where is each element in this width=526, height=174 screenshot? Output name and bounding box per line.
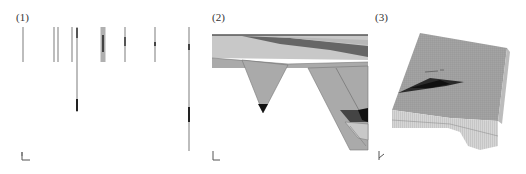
axis-indicator-icon	[370, 0, 526, 174]
panel-cross-section: (2)	[200, 0, 370, 174]
panel-3d-grid: (3)	[370, 0, 526, 174]
axis-indicator-icon	[0, 0, 200, 174]
panel-well-logs: (1)	[0, 0, 200, 174]
axis-indicator-icon	[200, 0, 370, 174]
